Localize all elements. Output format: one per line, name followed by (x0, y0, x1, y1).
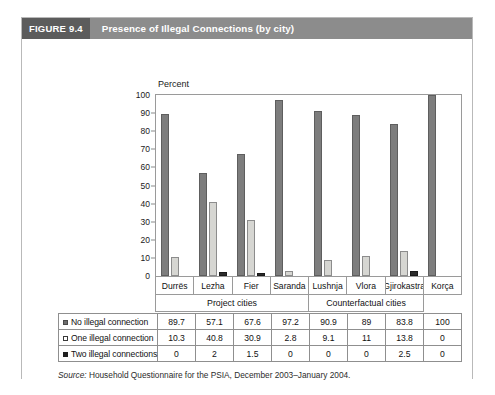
table-cell: 90.9 (310, 314, 348, 330)
table-row-header: Two illegal connections (59, 346, 158, 362)
table-cell: 0 (424, 330, 462, 346)
source-note: Source: Household Questionnaire for the … (58, 370, 350, 380)
legend-swatch-icon (63, 352, 68, 357)
bar (247, 220, 255, 276)
figure-number-badge: FIGURE 9.4 (22, 18, 90, 39)
legend-label: No illegal connection (71, 317, 148, 327)
source-text: Household Questionnaire for the PSIA, De… (87, 370, 351, 380)
bar-group (385, 95, 423, 276)
bar (171, 257, 179, 276)
y-tick-label: 50 (141, 181, 150, 191)
table-cell: 9.1 (310, 330, 348, 346)
y-tick-label: 100 (136, 90, 150, 100)
table-cell: 0 (272, 346, 310, 362)
table-cell: 13.8 (386, 330, 424, 346)
figure-title: Presence of Illegal Connections (by city… (90, 18, 294, 39)
y-tick-label: 30 (141, 217, 150, 227)
figure-card: FIGURE 9.4 Presence of Illegal Connectio… (21, 17, 473, 379)
figure-page: FIGURE 9.4 Presence of Illegal Connectio… (0, 0, 495, 395)
bar (257, 273, 265, 276)
source-label: Source: (58, 370, 87, 380)
table-row: No illegal connection89.757.167.697.290.… (59, 314, 462, 330)
y-axis-title: Percent (158, 79, 189, 89)
category-label: Durrës (156, 277, 194, 294)
figure-header: FIGURE 9.4 Presence of Illegal Connectio… (22, 18, 472, 39)
bar (324, 260, 332, 276)
category-label: Vlora (347, 277, 385, 294)
table-cell: 11 (348, 330, 386, 346)
legend-label: One illegal connection (71, 333, 153, 343)
y-tick-label: 70 (141, 144, 150, 154)
category-group-label: Project cities (155, 295, 309, 312)
bar (314, 111, 322, 276)
bar (209, 202, 217, 276)
bar (410, 271, 418, 276)
y-tick-label: 40 (141, 199, 150, 209)
data-table: No illegal connection89.757.167.697.290.… (58, 313, 462, 362)
bar (285, 271, 293, 276)
bar (352, 115, 360, 276)
group-axis: Project citiesCounterfactual cities (155, 295, 462, 312)
category-axis: DurrësLezhaFierSarandaLushnjaVloraGjirok… (155, 277, 462, 295)
bar (161, 114, 169, 276)
y-tick-label: 10 (141, 253, 150, 263)
bar (390, 124, 398, 276)
legend-swatch-icon (63, 320, 68, 325)
table-cell: 100 (424, 314, 462, 330)
bar (199, 173, 207, 276)
table-cell: 40.8 (196, 330, 234, 346)
y-tick-label: 90 (141, 108, 150, 118)
table-cell: 30.9 (234, 330, 272, 346)
table-cell: 83.8 (386, 314, 424, 330)
bar-group (347, 95, 385, 276)
category-label: Lushnja (309, 277, 347, 294)
bar-group (156, 95, 194, 276)
category-group-label: Counterfactual cities (309, 295, 424, 312)
category-label: Saranda (271, 277, 309, 294)
table-cell: 2 (196, 346, 234, 362)
table-cell: 0 (310, 346, 348, 362)
bar-group (194, 95, 232, 276)
y-tick-label: 60 (141, 162, 150, 172)
bar (362, 256, 370, 276)
bar (219, 272, 227, 276)
bar (428, 95, 436, 276)
y-axis: 0102030405060708090100 (128, 94, 155, 277)
table-cell: 0 (158, 346, 196, 362)
bar-group (232, 95, 270, 276)
table-cell: 0 (424, 346, 462, 362)
table-cell: 97.2 (272, 314, 310, 330)
category-label: Gjirokastra (386, 277, 424, 294)
table-cell: 2.8 (272, 330, 310, 346)
data-table-body: No illegal connection89.757.167.697.290.… (59, 314, 462, 362)
table-row-header: No illegal connection (59, 314, 158, 330)
table-cell: 57.1 (196, 314, 234, 330)
table-cell: 67.6 (234, 314, 272, 330)
table-cell: 89 (348, 314, 386, 330)
y-tick-label: 80 (141, 126, 150, 136)
bar (237, 154, 245, 276)
bar (400, 251, 408, 276)
y-tick-label: 0 (145, 271, 150, 281)
table-row: One illegal connection10.340.830.92.89.1… (59, 330, 462, 346)
category-label: Fier (233, 277, 271, 294)
legend-swatch-icon (63, 336, 68, 341)
table-cell: 89.7 (158, 314, 196, 330)
table-cell: 2.5 (386, 346, 424, 362)
y-tick-label: 20 (141, 235, 150, 245)
bar-group (270, 95, 308, 276)
table-cell: 1.5 (234, 346, 272, 362)
table-cell: 0 (348, 346, 386, 362)
bar (275, 100, 283, 276)
category-label: Lezha (194, 277, 232, 294)
table-cell: 10.3 (158, 330, 196, 346)
category-label: Korça (424, 277, 461, 294)
bar-group (423, 95, 461, 276)
bar-group (309, 95, 347, 276)
category-group-label (424, 295, 462, 312)
legend-label: Two illegal connections (71, 349, 157, 359)
figure-body: Percent 0102030405060708090100 DurrësLez… (22, 39, 472, 379)
table-row-header: One illegal connection (59, 330, 158, 346)
bar-groups (156, 95, 461, 276)
table-row: Two illegal connections021.50002.50 (59, 346, 462, 362)
